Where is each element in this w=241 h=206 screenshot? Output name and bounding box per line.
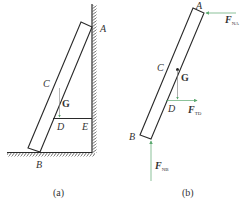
force-td-label: FTD: [188, 105, 201, 116]
ladder-a: [28, 22, 92, 152]
wall-hatching: [93, 5, 97, 153]
label-b-point-c: C: [157, 63, 164, 73]
label-b-gravity: G: [181, 73, 189, 83]
diagram-drawing: [0, 0, 241, 206]
force-na-label: FNA: [225, 15, 239, 26]
caption-b: (b): [182, 188, 194, 198]
label-b-point-b: B: [129, 132, 135, 142]
label-a-gravity: G: [62, 99, 70, 109]
label-a-point-c: C: [43, 79, 50, 89]
caption-a: (a): [53, 188, 64, 198]
label-a-point-b: B: [36, 160, 42, 170]
floor-hatching: [7, 153, 95, 157]
label-a-point-d: D: [57, 122, 64, 132]
panel-b-drawing: [140, 8, 236, 181]
ladder-b: [140, 8, 204, 139]
ladder-diagram: A C G D E B (a) A C G D B FNA FTD FNB (b…: [0, 0, 241, 206]
label-b-point-d: D: [168, 104, 175, 114]
label-a-point-e: E: [82, 122, 88, 132]
force-nb-label: FNB: [155, 161, 169, 172]
label-b-point-a: A: [196, 1, 202, 11]
panel-a-drawing: [7, 4, 97, 157]
label-a-point-a: A: [100, 24, 106, 34]
